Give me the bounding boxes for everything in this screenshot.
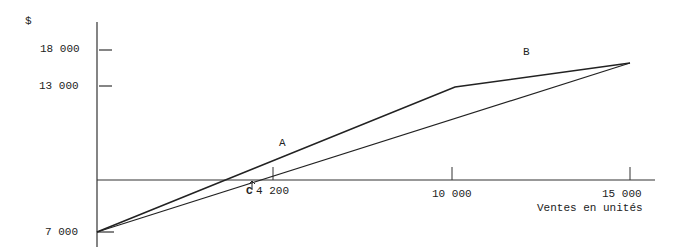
x-tick-label-4200: 4 200	[256, 186, 289, 197]
x-tick-prefix-c: C	[246, 186, 253, 197]
y-tick-label-18000: 18 000	[40, 44, 80, 55]
y-tick-label-13000: 13 000	[39, 81, 79, 92]
line-b-label: B	[523, 47, 530, 58]
y-tick-label-7000: 7 000	[45, 227, 78, 238]
x-tick-label-10000: 10 000	[432, 189, 472, 200]
break-even-chart: $ 18 000 13 000 7 000 C 4 200 10 000 15 …	[0, 0, 697, 249]
x-tick-label-15000: 15 000	[602, 189, 642, 200]
y-unit-label: $	[25, 16, 32, 27]
line-a-label: A	[279, 138, 286, 149]
x-axis-title: Ventes en unités	[537, 203, 643, 214]
